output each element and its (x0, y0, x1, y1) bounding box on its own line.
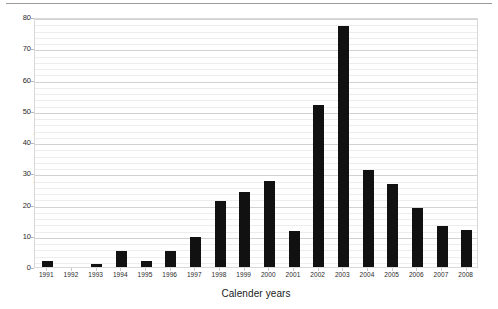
x-axis-tick-mark (96, 268, 97, 271)
x-axis-tick-mark (441, 268, 442, 271)
x-axis-tick-mark (71, 268, 72, 271)
bar (338, 26, 349, 267)
x-axis-tick-mark (293, 268, 294, 271)
x-axis-tick-label: 1995 (138, 271, 153, 278)
bar (387, 184, 398, 267)
bar-series (35, 19, 477, 267)
x-axis-tick-label: 1997 (187, 271, 202, 278)
x-axis-tick-label: 1992 (64, 271, 79, 278)
bar (313, 105, 324, 268)
x-axis-tick-label: 2008 (458, 271, 473, 278)
bar (190, 237, 201, 267)
bar (239, 192, 250, 267)
y-axis-tick-mark (31, 268, 34, 269)
x-axis-tick-mark (416, 268, 417, 271)
x-axis-tick-label: 1994 (113, 271, 128, 278)
x-axis-tick-mark (145, 268, 146, 271)
x-axis-tick-label: 2006 (409, 271, 424, 278)
x-axis-tick-mark (120, 268, 121, 271)
x-axis-tick-label: 1991 (39, 271, 54, 278)
x-axis-tick-mark (367, 268, 368, 271)
x-axis-tick-mark (466, 268, 467, 271)
x-axis-tick-label: 1993 (88, 271, 103, 278)
chart-figure: Number of events 01020304050607080 19911… (0, 0, 498, 309)
x-axis-tick-label: 2004 (360, 271, 375, 278)
x-axis-tick-label: 2003 (335, 271, 350, 278)
x-axis-tick-labels: 1991199219931994199519961997199819992000… (34, 271, 478, 285)
x-axis-tick-mark (244, 268, 245, 271)
x-axis-tick-label: 2001 (286, 271, 301, 278)
bar (215, 201, 226, 267)
x-axis-tick-mark (46, 268, 47, 271)
x-axis-tick-mark (194, 268, 195, 271)
bar (363, 170, 374, 267)
bar (165, 251, 176, 267)
bar (461, 230, 472, 268)
x-axis-tick-mark (268, 268, 269, 271)
x-axis-tick-mark (219, 268, 220, 271)
x-axis-tick-label: 1996 (162, 271, 177, 278)
plot-area (34, 18, 478, 268)
x-axis-tick-label: 2005 (384, 271, 399, 278)
x-axis-tick-label: 2002 (310, 271, 325, 278)
bar (289, 231, 300, 267)
x-axis-title: Calender years (34, 288, 478, 299)
x-axis-tick-mark (392, 268, 393, 271)
bar (91, 264, 102, 267)
bar (42, 261, 53, 267)
x-axis-tick-label: 1998 (212, 271, 227, 278)
x-axis-tick-mark (342, 268, 343, 271)
bar (141, 261, 152, 267)
x-axis-tick-mark (170, 268, 171, 271)
page-top-rule (6, 3, 492, 4)
x-axis-tick-label: 2007 (434, 271, 449, 278)
bar (437, 226, 448, 267)
x-axis-tick-label: 1999 (236, 271, 251, 278)
y-axis-tick-marks (0, 18, 34, 268)
bar (412, 208, 423, 267)
bar (264, 181, 275, 267)
x-axis-tick-mark (318, 268, 319, 271)
x-axis-tick-label: 2000 (261, 271, 276, 278)
bar (116, 251, 127, 267)
